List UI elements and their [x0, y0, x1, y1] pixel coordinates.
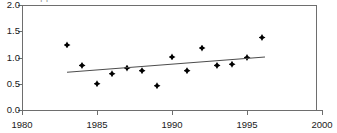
trend-line	[67, 57, 265, 72]
